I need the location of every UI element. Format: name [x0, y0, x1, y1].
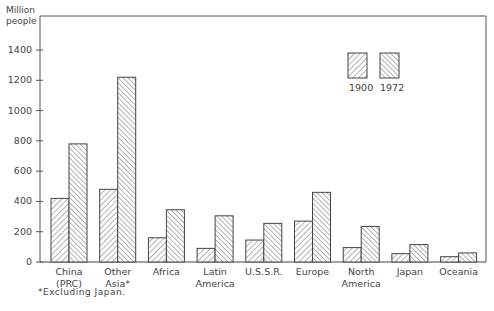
x-tick-label: Japan [384, 266, 436, 278]
x-tick-label: LatinAmerica [189, 266, 241, 290]
footnote: *Excluding Japan. [38, 287, 125, 297]
bar-1972 [361, 226, 379, 262]
legend-swatch-1900 [348, 53, 367, 78]
y-tick-label: 1000 [2, 105, 32, 116]
y-tick-label: 0 [2, 256, 32, 267]
bars [51, 77, 477, 262]
x-tick-label: NorthAmerica [335, 266, 387, 290]
bar-1900 [246, 240, 264, 262]
y-tick-label: 1400 [2, 44, 32, 55]
bar-1900 [51, 198, 69, 262]
bar-1900 [148, 238, 166, 262]
bar-1972 [459, 253, 477, 262]
legend-swatch-1972 [380, 53, 399, 78]
bar-1972 [69, 144, 87, 262]
legend-label-1972: 1972 [380, 82, 404, 93]
bar-1900 [392, 254, 410, 262]
y-tick-label: 600 [2, 165, 32, 176]
x-tick-label: Africa [140, 266, 192, 278]
bar-1900 [100, 189, 118, 262]
bar-1972 [118, 77, 136, 262]
x-tick-label: Oceania [433, 266, 485, 278]
y-tick-label: 400 [2, 195, 32, 206]
bar-1900 [197, 248, 215, 262]
legend-swatches [348, 53, 399, 78]
bar-1972 [313, 192, 331, 262]
bar-chart [0, 0, 494, 311]
bar-1972 [410, 245, 428, 262]
bar-1972 [166, 210, 184, 262]
bar-1972 [264, 223, 282, 262]
bar-1972 [215, 216, 233, 262]
y-tick-label: 800 [2, 135, 32, 146]
y-tick-label: 1200 [2, 74, 32, 85]
x-tick-label: Europe [287, 266, 339, 278]
bar-1900 [295, 221, 313, 262]
bar-1900 [441, 257, 459, 262]
x-tick-label: U.S.S.R. [238, 266, 290, 278]
y-tick-label: 200 [2, 226, 32, 237]
bar-1900 [343, 248, 361, 262]
legend-label-1900: 1900 [349, 82, 373, 93]
